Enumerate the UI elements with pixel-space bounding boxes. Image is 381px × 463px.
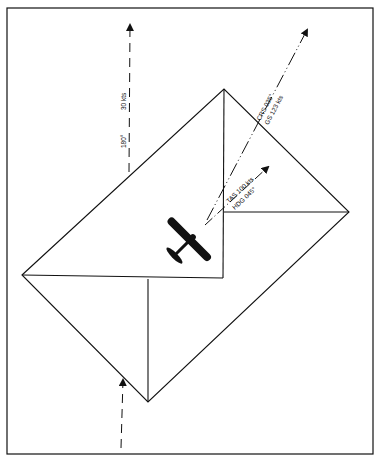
wind-speed-label: 30 kts	[120, 92, 127, 110]
wind-vector	[121, 25, 130, 448]
wind-direction-label: 180°	[120, 134, 127, 148]
course-vector	[207, 30, 307, 220]
airplane-icon	[149, 204, 222, 277]
frame-border	[7, 8, 373, 454]
wind-triangle-diagram: 30 kts 180° CRS 035° GS 123 kts TAS 100 …	[0, 0, 381, 463]
